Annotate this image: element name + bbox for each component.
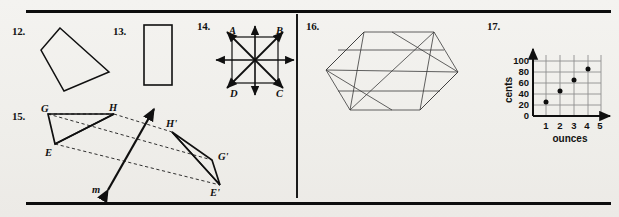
segment-HprimeEprime — [172, 132, 220, 185]
y-tick-40: 40 — [518, 88, 529, 99]
correspondence-dashes — [48, 114, 220, 185]
y-tick-60: 60 — [518, 77, 529, 88]
quadrilateral-shape — [41, 28, 109, 91]
data-point — [544, 100, 549, 105]
data-point — [558, 89, 563, 94]
figure-14-square-axes: A B C D — [208, 18, 302, 114]
worksheet-page: 12. 13. 14. — [0, 0, 619, 217]
segment-HE — [55, 114, 114, 144]
label-G: G — [41, 103, 49, 114]
figure-15-reflection: G H E H' G' E' m — [30, 104, 270, 196]
chart-gridlines — [533, 55, 601, 116]
label-D: D — [229, 88, 238, 99]
axis-rays — [216, 26, 294, 95]
x-tick-3: 3 — [571, 120, 576, 131]
figure-17-scatter-plot: 0 20 40 60 80 100 1 2 3 4 5 cents ounces — [492, 38, 614, 148]
label-H: H — [108, 102, 118, 113]
problem-number-12: 12. — [12, 25, 25, 37]
y-tick-80: 80 — [518, 66, 529, 77]
x-tick-4: 4 — [584, 120, 590, 131]
figure-16-tessellation — [322, 28, 462, 114]
bottom-rule — [26, 202, 611, 205]
label-G-prime: G' — [218, 151, 229, 162]
problem-number-13: 13. — [113, 25, 126, 37]
label-E-prime: E' — [209, 187, 220, 198]
label-E: E — [44, 147, 52, 158]
x-tick-5: 5 — [597, 120, 603, 131]
line-m — [108, 109, 154, 190]
y-tick-100: 100 — [513, 55, 529, 66]
x-axis-label: ounces — [552, 133, 587, 144]
top-rule — [26, 10, 611, 13]
y-axis-label: cents — [503, 77, 514, 104]
label-A: A — [228, 25, 236, 36]
label-C: C — [276, 88, 284, 99]
y-tick-0: 0 — [524, 110, 529, 121]
data-point — [586, 67, 591, 72]
rectangle-shape — [144, 25, 172, 85]
label-B: B — [275, 25, 283, 36]
label-m: m — [92, 184, 100, 195]
x-tick-2: 2 — [557, 120, 562, 131]
problem-number-16: 16. — [306, 20, 319, 32]
label-H-prime: H' — [165, 118, 177, 129]
y-tick-20: 20 — [518, 99, 529, 110]
tessellation-lines — [326, 32, 458, 110]
problem-number-17: 17. — [487, 20, 500, 32]
data-point — [572, 78, 577, 83]
x-tick-1: 1 — [543, 120, 549, 131]
problem-number-15: 15. — [12, 110, 25, 122]
figure-13-rectangle — [140, 22, 184, 90]
